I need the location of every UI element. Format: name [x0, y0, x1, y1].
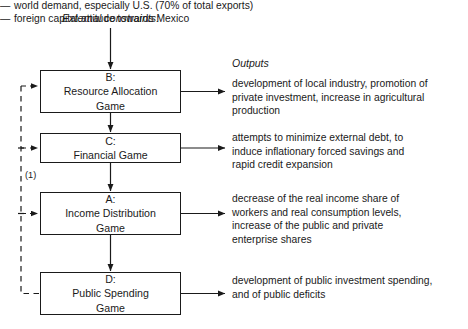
- constraint-item: — world demand, especially U.S. (70% of …: [0, 0, 468, 11]
- em-dash-icon: —: [0, 13, 9, 24]
- box-title-label: Resource Allocation Game: [64, 84, 158, 112]
- output-text-financial: attempts to minimize external debt, to i…: [232, 131, 464, 172]
- box-public-spending-game[interactable]: D: Public Spending Game: [40, 272, 181, 315]
- box-financial-game[interactable]: C: Financial Game: [40, 133, 181, 163]
- box-code-label: B:: [105, 70, 115, 84]
- box-code-label: A:: [105, 192, 115, 206]
- box-income-distribution-game[interactable]: A: Income Distribution Game: [40, 192, 181, 235]
- outputs-heading: Outputs: [232, 57, 269, 70]
- box-title-label: Income Distribution Game: [65, 206, 156, 234]
- box-title-label: Financial Game: [73, 148, 147, 162]
- external-constraints-label: External constraints:: [62, 12, 159, 25]
- box-resource-allocation-game[interactable]: B: Resource Allocation Game: [40, 70, 181, 113]
- constraint-text: world demand, especially U.S. (70% of to…: [14, 0, 253, 11]
- diagram-page: External constraints: — world demand, es…: [0, 0, 468, 329]
- output-text-income-distribution: decrease of the real income share of wor…: [232, 192, 464, 246]
- output-text-resource-allocation: development of local industry, promotion…: [232, 77, 464, 118]
- box-code-label: C:: [105, 134, 116, 148]
- feedback-trunk-dashed: [21, 86, 39, 294]
- em-dash-icon: —: [0, 0, 9, 11]
- box-code-label: D:: [105, 272, 116, 286]
- feedback-loop-note: (1): [25, 170, 36, 182]
- box-title-label: Public Spending Game: [72, 286, 149, 314]
- output-text-public-spending: development of public investment spendin…: [232, 274, 464, 301]
